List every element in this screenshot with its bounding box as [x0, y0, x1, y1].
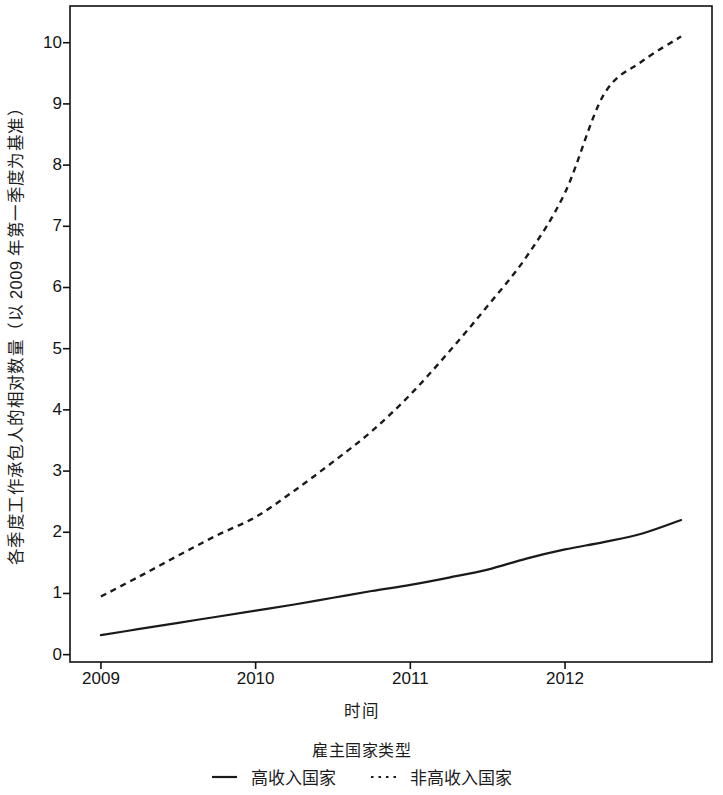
x-axis-tick-label: 2009 [61, 669, 141, 689]
legend-entry: 非高收入国家 [370, 764, 512, 789]
x-axis-tick-label: 2010 [216, 669, 296, 689]
legend-entry: 高收入国家 [211, 764, 336, 789]
x-axis-title: 时间 [0, 698, 723, 722]
series-line-1 [101, 520, 681, 635]
legend: 高收入国家非高收入国家 [0, 764, 723, 789]
chart-figure: 各季度工作承包人的相对数量（以 2009 年第一季度为基准） 012345678… [0, 0, 723, 795]
legend-entry-label: 高收入国家 [251, 764, 336, 789]
plot-frame [70, 6, 712, 662]
legend-entry-label: 非高收入国家 [410, 764, 512, 789]
x-axis-tick-label: 2011 [370, 669, 450, 689]
x-axis-tick-label: 2012 [525, 669, 605, 689]
solid-line-icon [211, 771, 238, 783]
series-line-2 [101, 37, 681, 597]
legend-title: 雇主国家类型 [0, 737, 723, 761]
dotted-line-icon [370, 771, 397, 783]
